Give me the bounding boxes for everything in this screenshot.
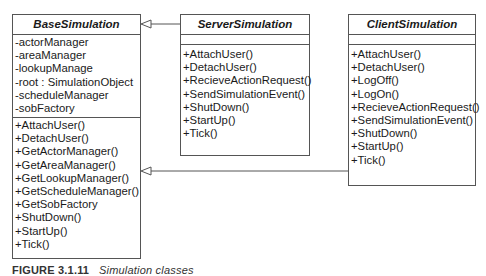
attribute: -lookupManage [15, 62, 140, 75]
methods-section: +AttachUser() +DetachUser() +LogOff() +L… [349, 45, 475, 168]
method: +DetachUser() [15, 132, 140, 145]
hollow-triangle-arrow-icon [141, 20, 151, 28]
method: +AttachUser() [351, 48, 475, 61]
method: +ShutDown() [351, 127, 475, 140]
method: +ShutDown() [183, 101, 309, 114]
method: +Tick() [351, 154, 475, 167]
method: +SendSimulationEvent() [183, 88, 309, 101]
attributes-section: -actorManager -areaManager -lookupManage… [13, 35, 140, 118]
method: +SendSimulationEvent() [351, 114, 475, 127]
attributes-section-empty [349, 35, 475, 45]
methods-section: +AttachUser() +DetachUser() +RecieveActi… [181, 45, 309, 141]
hollow-triangle-arrow-icon [141, 167, 151, 175]
method: +Tick() [183, 127, 309, 140]
attributes-section-empty [181, 35, 309, 45]
method: +DetachUser() [183, 61, 309, 74]
figure-caption-text: Simulation classes [99, 264, 194, 276]
attribute: -scheduleManager [15, 89, 140, 102]
class-name: ServerSimulation [181, 15, 309, 35]
figure-caption: FIGURE 3.1.11 Simulation classes [12, 264, 194, 276]
generalization-server-to-base [141, 20, 180, 28]
class-base-simulation[interactable]: BaseSimulation -actorManager -areaManage… [12, 14, 141, 259]
method: +LogOff() [351, 74, 475, 87]
method: +StartUp() [351, 140, 475, 153]
figure-label: FIGURE 3.1.11 [12, 264, 89, 276]
generalization-client-to-base [141, 167, 348, 175]
method: +GetLookupManager() [15, 172, 140, 185]
attribute: -sobFactory [15, 102, 140, 115]
method: +AttachUser() [183, 48, 309, 61]
attribute: -actorManager [15, 36, 140, 49]
method: +StartUp() [15, 225, 140, 238]
attribute: -root : SimulationObject [15, 76, 140, 89]
method: +StartUp() [183, 114, 309, 127]
class-client-simulation[interactable]: ClientSimulation +AttachUser() +DetachUs… [348, 14, 476, 186]
method: +Tick() [15, 238, 140, 251]
method: +DetachUser() [351, 61, 475, 74]
method: +RecieveActionRequest() [183, 74, 309, 87]
method: +GetAreaManager() [15, 159, 140, 172]
method: +LogOn() [351, 88, 475, 101]
method: +AttachUser() [15, 119, 140, 132]
method: +ShutDown() [15, 211, 140, 224]
class-server-simulation[interactable]: ServerSimulation +AttachUser() +DetachUs… [180, 14, 310, 156]
attribute: -areaManager [15, 49, 140, 62]
methods-section: +AttachUser() +DetachUser() +GetActorMan… [13, 118, 140, 252]
method: +GetScheduleManager() [15, 185, 140, 198]
method: +GetSobFactory [15, 198, 140, 211]
method: +RecieveActionRequest() [351, 101, 475, 114]
method: +GetActorManager() [15, 145, 140, 158]
class-name: BaseSimulation [13, 15, 140, 35]
class-name: ClientSimulation [349, 15, 475, 35]
